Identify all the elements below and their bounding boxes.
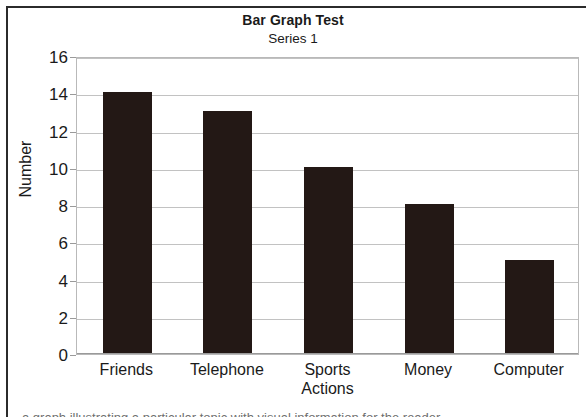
bar xyxy=(203,111,252,353)
gridline xyxy=(77,95,578,96)
gridline xyxy=(77,58,578,59)
y-axis-tick-label: 6 xyxy=(10,235,68,252)
y-axis-tick-label: 2 xyxy=(10,310,68,327)
x-axis-category-label: SportsActions xyxy=(273,360,383,398)
gridline xyxy=(77,133,578,134)
x-axis-category-label-line: Computer xyxy=(474,360,584,379)
y-axis-tick-label: 4 xyxy=(10,273,68,290)
x-axis-line xyxy=(77,353,578,354)
y-axis-tick-mark xyxy=(70,355,76,356)
bar xyxy=(304,167,353,353)
y-axis-tick-label: 10 xyxy=(10,161,68,178)
y-axis-tick-label: 8 xyxy=(10,198,68,215)
chart-title: Bar Graph Test xyxy=(0,12,586,28)
x-axis-category-label: Money xyxy=(373,360,483,379)
bar xyxy=(405,204,454,353)
x-axis-category-label-line: Money xyxy=(373,360,483,379)
chart-subtitle: Series 1 xyxy=(0,31,586,46)
plot-area xyxy=(76,57,579,355)
x-axis-category-label-line: Friends xyxy=(71,360,181,379)
y-axis-tick-label: 16 xyxy=(10,49,68,66)
x-axis-category-label: Computer xyxy=(474,360,584,379)
x-axis-category-label: Telephone xyxy=(172,360,282,379)
x-axis-category-label-line: Actions xyxy=(273,379,383,398)
y-axis-tick-label: 0 xyxy=(10,347,68,364)
x-axis-category-label-line: Telephone xyxy=(172,360,282,379)
bar-chart: Bar Graph Test Series 1 Number 024681012… xyxy=(0,0,586,417)
bar xyxy=(103,92,152,353)
bar xyxy=(505,260,554,353)
y-axis-tick-label: 14 xyxy=(10,86,68,103)
page-cutoff-text: a graph illustrating a particular topic … xyxy=(22,410,562,417)
y-axis-tick-label: 12 xyxy=(10,124,68,141)
x-axis-category-label-line: Sports xyxy=(273,360,383,379)
x-axis-category-label: Friends xyxy=(71,360,181,379)
